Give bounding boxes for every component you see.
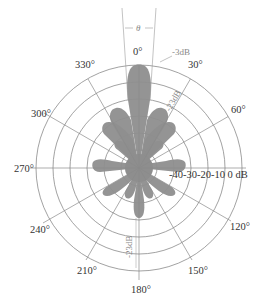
side-lobe-level-annotation: -23dB	[163, 89, 183, 113]
angle-label-180: 180°	[131, 284, 151, 295]
db-scale-label: -40-30-20-10 0 dB	[169, 169, 248, 180]
back-lobe-db-label: -23dB	[124, 236, 134, 259]
back-lobe-level-annotation: -23dB	[124, 218, 136, 268]
angle-label-60: 60°	[231, 104, 246, 115]
angle-label-150: 150°	[188, 265, 208, 276]
radiation-pattern-diagram: θ -3dB -23dB -23dB -40-30-20-10 0 dB 0° …	[0, 0, 264, 304]
angle-label-120: 120°	[230, 221, 250, 232]
angle-label-210: 210°	[77, 265, 97, 276]
minus-3db-annotation: -3dB	[160, 47, 190, 62]
side-lobe-db-label: -23dB	[163, 89, 183, 113]
angle-label-0: 0°	[133, 46, 142, 57]
angle-label-330: 330°	[75, 59, 95, 70]
angle-label-30: 30°	[188, 59, 203, 70]
angle-label-300: 300°	[31, 108, 51, 119]
angle-label-270: 270°	[14, 163, 34, 174]
theta-label: θ	[136, 23, 141, 33]
angle-label-240: 240°	[30, 224, 50, 235]
minus-3db-label: -3dB	[172, 47, 190, 57]
